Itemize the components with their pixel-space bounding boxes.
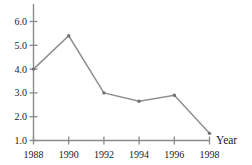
line-chart: 6.0 5.0 4.0 3.0 2.0 1.0 1988 1990 1992 1… [0,0,252,165]
x-axis-title: Year [216,134,237,146]
x-tick-label-1994: 1994 [129,149,149,160]
x-tick-label-1990: 1990 [59,149,79,160]
data-point [173,94,176,97]
x-tick-label-1992: 1992 [94,149,114,160]
x-tick-label-1988: 1988 [24,149,44,160]
chart-page: 6.0 5.0 4.0 3.0 2.0 1.0 1988 1990 1992 1… [0,0,252,165]
y-tick-label-3: 3.0 [15,87,28,98]
data-point [32,67,35,70]
y-tick-label-1: 1.0 [15,135,28,146]
data-point [208,132,211,135]
data-point [67,34,70,37]
data-point [137,100,140,103]
y-tick-label-6: 6.0 [15,16,28,27]
x-tick-label-1996: 1996 [164,149,184,160]
x-tick-label-1998: 1998 [200,149,220,160]
data-point [102,91,105,94]
y-tick-label-5: 5.0 [15,40,28,51]
y-tick-label-2: 2.0 [15,111,28,122]
y-tick-label-4: 4.0 [15,64,28,75]
